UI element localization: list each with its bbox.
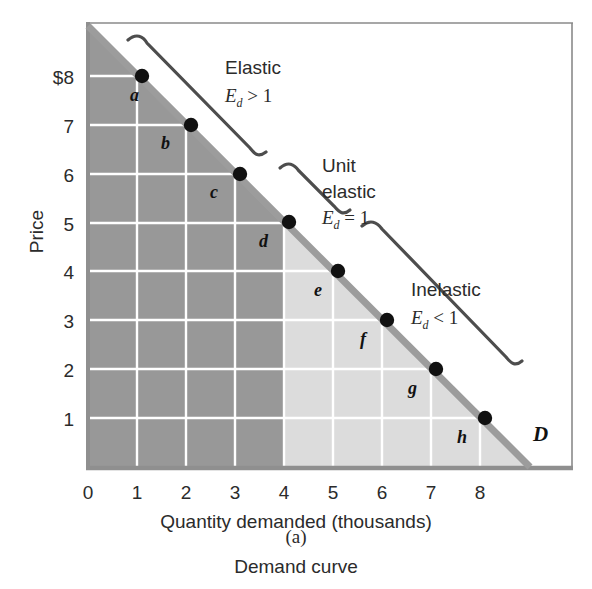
x-tick-label-8: 8 bbox=[460, 483, 500, 502]
y-tick-label-6: 6 bbox=[22, 166, 74, 185]
y-tick-label-4: 4 bbox=[22, 263, 74, 282]
x-tick-label-5: 5 bbox=[313, 483, 353, 502]
unit-elastic-value: 1 bbox=[360, 207, 370, 228]
data-point-e bbox=[331, 264, 345, 278]
data-point-a bbox=[135, 69, 149, 83]
elastic-relation: > bbox=[247, 85, 258, 106]
demand-curve-label: D bbox=[533, 424, 548, 445]
unit-elastic-relation: = bbox=[344, 207, 355, 228]
elastic-annotation-title: Elastic bbox=[225, 58, 281, 77]
point-label-c: c bbox=[210, 183, 218, 201]
inelastic-relation: < bbox=[433, 307, 444, 328]
unit-elastic-annotation-title-line2: elastic bbox=[322, 182, 376, 201]
elastic-symbol: E bbox=[225, 85, 237, 106]
demand-curve-figure: $8 7 6 5 4 3 2 1 Price 0 1 2 3 4 5 6 7 8… bbox=[0, 0, 592, 589]
point-label-h: h bbox=[457, 428, 467, 446]
y-tick-label-8: $8 bbox=[22, 68, 74, 87]
figure-panel-letter: (a) bbox=[0, 527, 592, 546]
point-label-a: a bbox=[130, 86, 139, 104]
inelastic-annotation-formula: Ed < 1 bbox=[411, 308, 458, 331]
x-tick-label-4: 4 bbox=[264, 483, 304, 502]
unit-elastic-symbol: E bbox=[322, 207, 334, 228]
point-label-d: d bbox=[259, 232, 268, 250]
elastic-value: 1 bbox=[263, 85, 273, 106]
unit-elastic-annotation-title-line1: Unit bbox=[322, 156, 356, 175]
point-label-b: b bbox=[161, 134, 170, 152]
x-tick-label-7: 7 bbox=[411, 483, 451, 502]
x-tick-label-3: 3 bbox=[215, 483, 255, 502]
data-point-g bbox=[429, 362, 443, 376]
data-point-h bbox=[478, 411, 492, 425]
inelastic-symbol: E bbox=[411, 307, 423, 328]
point-label-e: e bbox=[314, 281, 322, 299]
y-tick-label-1: 1 bbox=[22, 410, 74, 429]
x-tick-label-6: 6 bbox=[362, 483, 402, 502]
elastic-subscript: d bbox=[237, 96, 243, 110]
unit-elastic-annotation-formula: Ed = 1 bbox=[322, 208, 369, 231]
data-point-c bbox=[233, 167, 247, 181]
point-label-g: g bbox=[408, 379, 417, 397]
inelastic-value: 1 bbox=[449, 307, 459, 328]
inelastic-annotation-title: Inelastic bbox=[411, 280, 481, 299]
inelastic-subscript: d bbox=[423, 318, 429, 332]
x-tick-label-0: 0 bbox=[68, 483, 108, 502]
data-point-b bbox=[184, 118, 198, 132]
y-tick-label-7: 7 bbox=[22, 117, 74, 136]
point-label-f: f bbox=[360, 330, 366, 348]
elastic-annotation-formula: Ed > 1 bbox=[225, 86, 272, 109]
x-tick-label-1: 1 bbox=[117, 483, 157, 502]
x-tick-label-2: 2 bbox=[166, 483, 206, 502]
y-tick-label-2: 2 bbox=[22, 361, 74, 380]
unit-elastic-subscript: d bbox=[334, 218, 340, 232]
y-axis-title: Price bbox=[27, 202, 46, 262]
data-point-f bbox=[380, 313, 394, 327]
data-point-d bbox=[282, 215, 296, 229]
y-tick-label-3: 3 bbox=[22, 312, 74, 331]
figure-caption-title: Demand curve bbox=[0, 557, 592, 576]
